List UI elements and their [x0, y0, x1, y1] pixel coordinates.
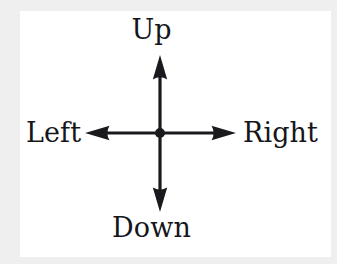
figure-root: Up Down Left Right	[0, 0, 337, 264]
label-left: Left	[26, 119, 81, 146]
up-arrow-head	[153, 55, 167, 80]
down-arrow-head	[153, 188, 167, 213]
label-down: Down	[0, 214, 337, 241]
label-right: Right	[243, 119, 318, 146]
left-arrow-head	[85, 126, 110, 140]
label-down-text: Down	[112, 212, 191, 243]
label-up: Up	[0, 16, 337, 43]
label-up-text: Up	[131, 14, 171, 45]
origin-dot	[155, 128, 165, 138]
right-arrow-head	[212, 126, 237, 140]
